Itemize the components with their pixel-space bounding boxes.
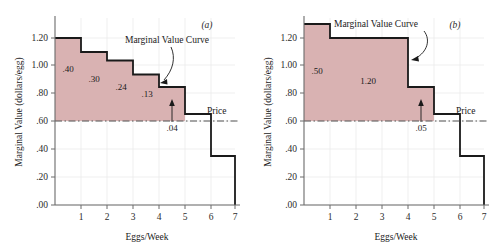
- y-tick-label-1: .20: [36, 172, 48, 182]
- y-tick-label-2: .40: [36, 144, 48, 154]
- y-tick-label-0: .00: [36, 200, 48, 210]
- x-tick-label-4: 4: [406, 212, 411, 222]
- consumer-surplus-region-a: [55, 38, 185, 121]
- curve-annotation-b: Marginal Value Curve: [334, 19, 418, 29]
- y-tick-label-6: 1.20: [280, 33, 297, 43]
- surplus-label-a-2: .30: [88, 74, 100, 84]
- chart-panel-a: .00 .20 .40 .60 .80 1.00 1.20 1 2 3 4 5 …: [0, 0, 249, 249]
- surplus-label-a-3: .24: [115, 82, 127, 92]
- price-label-a: Price: [207, 106, 227, 116]
- chart-panel-b: .00 .20 .40 .60 .80 1.00 1.20 1 2 3 4 5 …: [249, 0, 498, 249]
- y-tick-label-3: .60: [285, 116, 297, 126]
- y-tick-label-0: .00: [285, 200, 297, 210]
- y-axis-title-a: Marginal Value (dollars/egg): [14, 57, 25, 166]
- x-tick-label-7: 7: [482, 212, 487, 222]
- x-ticks-b: [330, 205, 484, 209]
- x-tick-label-6: 6: [458, 212, 463, 222]
- chart-svg-b: .00 .20 .40 .60 .80 1.00 1.20 1 2 3 4 5 …: [249, 0, 498, 249]
- panel-tag-a: (a): [201, 20, 212, 31]
- y-tick-label-4: .80: [36, 88, 48, 98]
- y-tick-label-5: 1.00: [280, 60, 297, 70]
- surplus-label-b-2: 1.20: [360, 76, 376, 86]
- y-ticks-b: [300, 38, 304, 205]
- x-tick-label-1: 1: [79, 212, 84, 222]
- x-tick-label-5: 5: [183, 212, 188, 222]
- y-tick-label-3: .60: [36, 116, 48, 126]
- x-tick-label-5: 5: [432, 212, 437, 222]
- y-axis-title-b: Marginal Value (dollars/egg): [263, 57, 274, 166]
- surplus-label-a-4: .13: [141, 89, 153, 99]
- price-label-b: Price: [456, 106, 476, 116]
- y-tick-label-5: 1.00: [31, 60, 48, 70]
- x-tick-label-2: 2: [354, 212, 359, 222]
- x-tick-label-3: 3: [131, 212, 136, 222]
- y-tick-label-1: .20: [285, 172, 297, 182]
- x-tick-label-4: 4: [157, 212, 162, 222]
- curve-annotation-a: Marginal Value Curve: [125, 35, 209, 45]
- y-tick-label-2: .40: [285, 144, 297, 154]
- x-ticks-a: [81, 205, 235, 209]
- x-axis-title-a: Eggs/Week: [125, 232, 168, 242]
- surplus-label-b-3: .05: [415, 123, 427, 133]
- x-axis-title-b: Eggs/Week: [374, 232, 417, 242]
- curve-leader-b: [411, 31, 427, 62]
- chart-svg-a: .00 .20 .40 .60 .80 1.00 1.20 1 2 3 4 5 …: [0, 0, 249, 249]
- x-tick-label-7: 7: [233, 212, 238, 222]
- x-tick-label-6: 6: [209, 212, 214, 222]
- panel-tag-b: (b): [449, 20, 460, 31]
- surplus-label-a-5: .04: [166, 123, 178, 133]
- x-tick-label-3: 3: [380, 212, 385, 222]
- figure-container: .00 .20 .40 .60 .80 1.00 1.20 1 2 3 4 5 …: [0, 0, 498, 249]
- y-ticks-a: [51, 38, 55, 205]
- y-tick-label-4: .80: [285, 88, 297, 98]
- surplus-label-b-1: .50: [311, 66, 323, 76]
- surplus-label-a-1: .40: [62, 64, 74, 74]
- x-tick-label-1: 1: [328, 212, 333, 222]
- curve-leader-a: [160, 47, 173, 85]
- x-tick-label-2: 2: [105, 212, 110, 222]
- y-tick-label-6: 1.20: [31, 33, 48, 43]
